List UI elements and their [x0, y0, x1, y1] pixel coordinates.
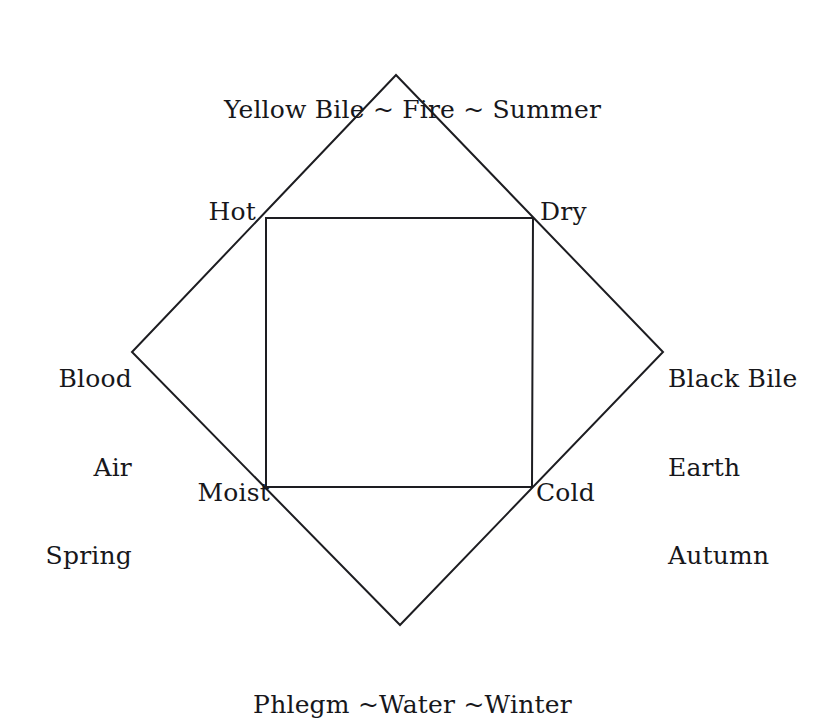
- quality-label-moist: Moist: [150, 478, 270, 508]
- quality-label-cold: Cold: [536, 478, 656, 508]
- vertex-label-left-line-3: Spring: [14, 541, 132, 571]
- vertex-label-top: Yellow Bile ~ Fire ~ Summer: [0, 36, 825, 184]
- vertex-label-top-line-1: Yellow Bile ~ Fire ~ Summer: [0, 95, 825, 125]
- vertex-label-left-line-2: Air: [14, 453, 132, 483]
- vertex-label-right-line-1: Black Bile: [668, 364, 813, 394]
- vertex-label-left: Blood Air Spring: [14, 305, 132, 630]
- vertex-label-bottom: Phlegm ~Water ~Winter: [0, 631, 825, 722]
- vertex-label-right-line-3: Autumn: [668, 541, 813, 571]
- vertex-label-right: Black Bile Earth Autumn: [668, 305, 813, 630]
- quality-label-hot: Hot: [136, 197, 256, 227]
- vertex-label-left-line-1: Blood: [14, 364, 132, 394]
- vertex-label-bottom-line-1: Phlegm ~Water ~Winter: [0, 690, 825, 720]
- vertex-label-right-line-2: Earth: [668, 453, 813, 483]
- quality-label-dry: Dry: [540, 197, 660, 227]
- inner-square-shape: [266, 218, 533, 487]
